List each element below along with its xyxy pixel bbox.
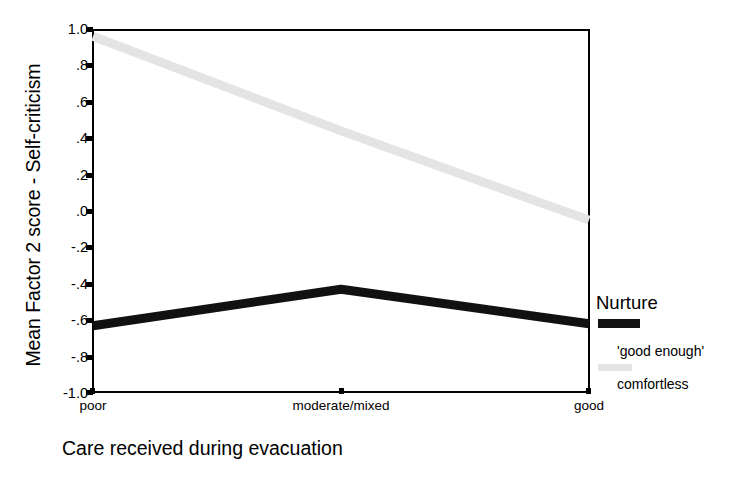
y-tick-label: -.2 [42,240,88,254]
x-tick-mark [339,388,344,394]
y-tick-label: .0 [42,204,88,218]
series-line-comfortless [93,289,589,325]
plot-lines [92,29,590,393]
x-tick-mark [90,388,95,394]
legend-swatch-comfortless [598,364,632,371]
legend-label-comfortless: comfortless [617,376,689,392]
y-tick-label: -.6 [42,313,88,327]
x-tick-label-good: good [574,398,604,413]
legend-swatch-good-enough [598,319,640,328]
x-tick-mark [586,388,591,394]
y-tick-label: -.4 [42,277,88,291]
x-tick-label-moderate-mixed: moderate/mixed [293,398,390,413]
y-tick-label: -.8 [42,350,88,364]
y-tick-label: .4 [42,131,88,145]
legend-label-good-enough: 'good enough' [617,343,704,359]
y-tick-label: .2 [42,168,88,182]
line-chart: Mean Factor 2 score - Self-criticism 1.0… [0,0,738,489]
x-axis-title: Care received during evacuation [62,437,343,460]
y-tick-label: .6 [42,95,88,109]
y-tick-label: 1.0 [42,22,88,36]
series-line-good-enough [93,36,589,220]
x-tick-label-poor: poor [79,398,106,413]
y-tick-label: .8 [42,58,88,72]
legend-title: Nurture [596,292,658,314]
y-axis-tick-labels: 1.0 .8 .6 .4 .2 .0 -.2 -.4 -.6 -.8 -1.0 [40,0,88,489]
